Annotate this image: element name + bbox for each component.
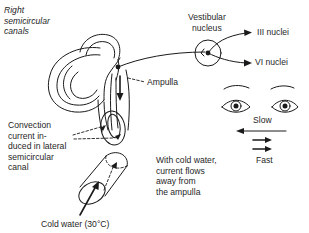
convection-pointer-2	[74, 138, 114, 139]
vi-nuclei-label: VI nuclei	[255, 57, 288, 68]
cold-water-note-line: current flows	[156, 166, 217, 177]
convection-line: semicircular	[8, 152, 66, 163]
vestibular-nucleus-label: Vestibular nucleus	[188, 12, 226, 33]
fast-phase-arrows	[253, 137, 272, 152]
cold-water-note: With cold water, current flows away from…	[156, 155, 217, 197]
convection-label: Convection current in- duced in lateral …	[8, 120, 66, 173]
canals-title-line: semicircular	[4, 16, 50, 27]
convection-line: duced in lateral	[8, 141, 66, 152]
ampulla-label: Ampulla	[147, 77, 178, 88]
vestibular-nerve-line	[118, 52, 205, 67]
convection-line: Convection	[8, 120, 66, 131]
cold-water-note-line: the ampulla	[156, 187, 217, 198]
vestibular-nucleus-line: nucleus	[188, 23, 226, 34]
convection-line: current in-	[8, 131, 66, 142]
iii-nuclei-label: III nuclei	[257, 27, 289, 38]
ampulla-pointer	[128, 78, 145, 82]
convection-pointer-1	[73, 126, 104, 135]
fast-label: Fast	[256, 155, 273, 166]
left-eye	[222, 85, 250, 112]
slow-label: Slow	[253, 115, 272, 126]
right-eyebrow	[271, 86, 294, 89]
left-eyebrow	[224, 85, 249, 89]
canals-title-line: Right	[4, 5, 50, 16]
convection-line: canal	[8, 162, 66, 173]
cold-water-cylinder	[75, 153, 128, 215]
slow-phase-arrow	[236, 128, 286, 134]
cold-water-label: Cold water (30°C)	[41, 219, 109, 230]
canals-title: Right semicircular canals	[4, 5, 50, 37]
vestibular-nucleus-symbol	[195, 30, 252, 67]
right-eye	[271, 86, 298, 112]
cold-water-note-line: away from	[156, 176, 217, 187]
canals-title-line: canals	[4, 26, 50, 37]
vestibular-nucleus-line: Vestibular	[188, 12, 226, 23]
cold-water-note-line: With cold water,	[156, 155, 217, 166]
